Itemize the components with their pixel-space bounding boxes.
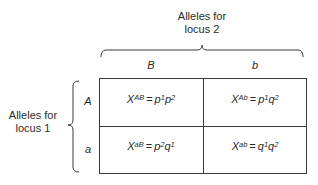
locus2-label-line1: Alleles for: [162, 10, 242, 23]
locus2-label: Alleles for locus 2: [162, 10, 242, 36]
cell-Ab: XAb = p1q2: [203, 80, 307, 128]
top-brace: [101, 45, 303, 57]
row-header-a: a: [78, 143, 98, 155]
cell-aB: XaB = p2q1: [99, 127, 203, 175]
column-header-b: b: [203, 59, 307, 71]
cell-AB: XAB = p1p2: [99, 80, 203, 128]
locus1-label-line1: Alleles for: [2, 109, 64, 122]
row-header-A: A: [78, 95, 98, 107]
column-header-B: B: [99, 59, 203, 71]
cell-ab: Xab = q1q2: [203, 127, 307, 175]
locus1-label: Alleles for locus 1: [2, 109, 64, 135]
locus1-label-line2: locus 1: [2, 122, 64, 135]
locus2-label-line2: locus 2: [162, 23, 242, 36]
